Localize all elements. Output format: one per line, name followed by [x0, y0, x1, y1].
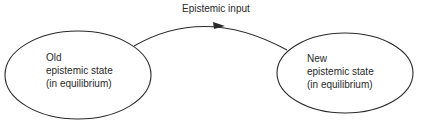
- old-state-label-line-1: Old: [46, 52, 62, 63]
- old-state-label-line-3: (in equilibrium): [46, 78, 112, 89]
- edge-epistemic-input: Epistemic input: [134, 3, 287, 50]
- new-state-label-line-2: epistemic state: [307, 66, 374, 77]
- transition-arc: [134, 26, 287, 50]
- new-state-label-line-1: New: [307, 53, 328, 64]
- new-state-label-line-3: (in equilibrium): [307, 79, 373, 90]
- diagram-canvas: Old epistemic state (in equilibrium) New…: [0, 0, 429, 120]
- node-old-epistemic-state: Old epistemic state (in equilibrium): [5, 31, 151, 119]
- edge-label: Epistemic input: [182, 3, 250, 14]
- node-new-epistemic-state: New epistemic state (in equilibrium): [277, 33, 413, 113]
- old-state-label-line-2: epistemic state: [46, 65, 113, 76]
